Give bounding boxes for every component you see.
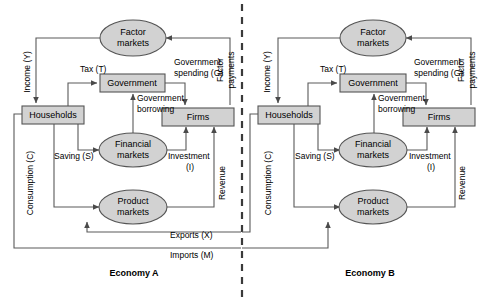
label-revenue-a: Revenue — [217, 166, 227, 200]
label-tax-a: Tax (T) — [80, 64, 107, 74]
label-government-borrowing-a: Government — [137, 93, 184, 103]
label-factor-payments-a-line2: payments — [226, 52, 236, 89]
label-factor-payments-a: Factor — [215, 58, 225, 82]
node-label: markets — [117, 150, 150, 160]
node-households-b[interactable]: Households — [258, 106, 320, 124]
label-government-borrowing-a-line2: borrowing — [137, 104, 175, 114]
node-label: Factor — [120, 27, 146, 37]
circular-flow-diagram: Factor markets Government Households Fir… — [0, 0, 490, 305]
label-government-borrowing-b-line2: borrowing — [378, 104, 416, 114]
label-investment-b-line2: (I) — [427, 162, 435, 172]
node-label: markets — [357, 38, 390, 48]
label-revenue-b: Revenue — [457, 166, 467, 200]
label-investment-b: Investment — [409, 151, 451, 161]
caption-economy-b: Economy B — [345, 268, 395, 278]
node-households-a[interactable]: Households — [22, 106, 84, 124]
node-financial-markets-a[interactable]: Financial markets — [99, 133, 167, 167]
label-investment-a-line2: (I) — [186, 162, 194, 172]
node-label: Government — [107, 78, 157, 88]
node-label: Financial — [355, 139, 391, 149]
node-label: markets — [357, 207, 390, 217]
label-tax-b: Tax (T) — [320, 64, 347, 74]
node-factor-markets-b[interactable]: Factor markets — [340, 20, 406, 56]
label-investment-a: Investment — [168, 151, 210, 161]
diagram-canvas: Factor markets Government Households Fir… — [0, 0, 490, 305]
label-government-borrowing-b: Government — [378, 93, 425, 103]
caption-economy-a: Economy A — [109, 268, 159, 278]
node-label: Households — [265, 110, 313, 120]
node-label: Product — [357, 196, 389, 206]
node-label: Firms — [428, 112, 451, 122]
label-income-a: Income (Y) — [22, 51, 32, 93]
node-label: Households — [29, 110, 77, 120]
label-saving-b: Saving (S) — [295, 151, 335, 161]
label-government-spending-b: Government — [414, 57, 461, 67]
node-label: Product — [117, 196, 149, 206]
node-label: Factor — [360, 27, 386, 37]
node-label: markets — [357, 150, 390, 160]
node-label: markets — [117, 207, 150, 217]
node-label: Firms — [187, 112, 210, 122]
node-label: markets — [117, 38, 150, 48]
label-imports: Imports (M) — [170, 250, 214, 260]
label-factor-payments-b-line2: payments — [467, 52, 477, 89]
node-financial-markets-b[interactable]: Financial markets — [339, 133, 407, 167]
node-factor-markets-a[interactable]: Factor markets — [100, 20, 166, 56]
label-consumption-a: Consumption (C) — [25, 151, 35, 215]
node-government-b[interactable]: Government — [340, 74, 406, 92]
node-government-a[interactable]: Government — [100, 74, 165, 92]
label-income-b: Income (Y) — [262, 51, 272, 93]
node-label: Financial — [115, 139, 151, 149]
node-product-markets-b[interactable]: Product markets — [339, 190, 407, 224]
label-saving-a: Saving (S) — [54, 151, 94, 161]
node-product-markets-a[interactable]: Product markets — [99, 190, 167, 224]
node-label: Government — [348, 78, 398, 88]
label-exports: Exports (X) — [170, 230, 213, 240]
label-consumption-b: Consumption (C) — [263, 151, 273, 215]
label-factor-payments-b: Factor — [456, 58, 466, 82]
